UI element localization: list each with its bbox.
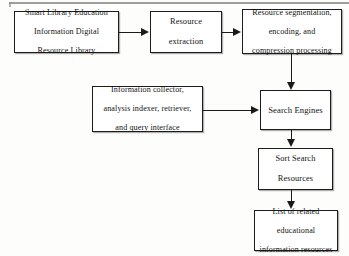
node-resource-extraction[interactable]: Resource extraction (150, 11, 222, 53)
node-sort-search-resources-text-2: Resources (274, 174, 318, 184)
node-source-library-line-1: Smart Library Education Information Digi… (21, 8, 112, 56)
node-search-engines[interactable]: Search Engines (260, 90, 331, 130)
node-source-library-text-1: Smart Library Education (23, 8, 110, 18)
edge-extraction-to-segmentation-arrowhead (233, 28, 241, 36)
node-information-collector-text-3: and query interface (102, 123, 194, 133)
edge-collector-to-search-arrowhead (251, 106, 259, 114)
node-source-library-text-3: Resource Library (23, 46, 110, 56)
edge-segmentation-to-search-line (291, 54, 292, 84)
node-source-library-text-2: Information Digital (23, 27, 110, 37)
node-segmentation-encoding-text-1: Resource segmentation, (250, 8, 334, 18)
node-result-list-text-3: information resources (258, 245, 335, 255)
node-information-collector-text-1: Information collector, (102, 85, 194, 95)
node-search-engines-text: Search Engines (266, 105, 325, 115)
node-result-list[interactable]: List of related educational information … (254, 210, 338, 251)
scan-edge-corner-artifact (9, 2, 11, 7)
node-resource-extraction-text-2: extraction (167, 37, 205, 47)
node-information-collector-text-2: analysis indexer, retriever, (102, 104, 194, 114)
node-resource-extraction-lines: Resource extraction (165, 17, 207, 47)
node-segmentation-encoding-lines: Resource segmentation, encoding, and com… (248, 8, 336, 56)
node-segmentation-encoding-text-2: encoding, and (250, 27, 334, 37)
edge-segmentation-to-search-arrowhead (287, 82, 295, 90)
edge-collector-to-search-line (203, 110, 253, 111)
edge-source-to-extraction-arrowhead (141, 28, 149, 36)
node-information-collector[interactable]: Information collector, analysis indexer,… (92, 86, 203, 132)
edge-source-to-extraction-line (119, 32, 143, 33)
node-source-library[interactable]: Smart Library Education Information Digi… (14, 11, 119, 53)
node-segmentation-encoding[interactable]: Resource segmentation, encoding, and com… (242, 9, 342, 54)
node-result-list-text-1: List of related (258, 207, 335, 217)
node-sort-search-resources-text-1: Sort Search (274, 154, 318, 164)
node-sort-search-resources[interactable]: Sort Search Resources (258, 148, 333, 190)
flowchart-canvas: Smart Library Education Information Digi… (0, 0, 349, 256)
node-information-collector-lines: Information collector, analysis indexer,… (100, 85, 196, 133)
node-resource-extraction-text-1: Resource (167, 17, 205, 27)
scan-edge-artifact (9, 2, 349, 4)
edge-search-to-sort-arrowhead (287, 139, 295, 147)
node-sort-search-resources-lines: Sort Search Resources (272, 154, 320, 184)
node-result-list-lines: List of related educational information … (256, 207, 337, 255)
node-result-list-text-2: educational (258, 226, 335, 236)
